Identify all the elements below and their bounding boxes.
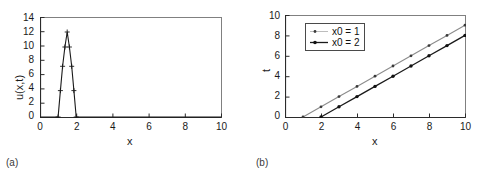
panel-b-ytick-6: 6 (255, 50, 280, 61)
legend-marker-x0-1-icon (309, 27, 329, 36)
panel-a-ytick-10: 10 (12, 40, 34, 51)
panel-a-xtick-2: 2 (67, 121, 87, 132)
panel-b-ytick-2: 2 (255, 90, 280, 101)
panel-a-ytick-8: 8 (12, 54, 34, 65)
panel-b-xtick-8: 8 (420, 121, 440, 132)
panel-a-xtick-4: 4 (103, 121, 123, 132)
figure-root: u(x,t) 0 2 4 6 8 10 12 14 (0, 0, 484, 177)
panel-b-tag: (b) (256, 157, 268, 168)
legend-marker-x0-2-icon (309, 38, 329, 47)
panel-b-legend: x0 = 1 x0 = 2 (305, 23, 365, 51)
panel-b-xtick-10: 10 (456, 121, 476, 132)
panel-b-x-axis-title: x (372, 135, 378, 147)
panel-b-xtick-4: 4 (348, 121, 368, 132)
panel-a-ytick-2: 2 (12, 96, 34, 107)
panel-a-xtick-0: 0 (30, 121, 50, 132)
panel-b-ytick-8: 8 (255, 30, 280, 41)
panel-a-ytick-6: 6 (12, 68, 34, 79)
panel-b-ytick-0: 0 (255, 110, 280, 121)
panel-a-ytick-4: 4 (12, 82, 34, 93)
panel-a: u(x,t) 0 2 4 6 8 10 12 14 (0, 0, 242, 177)
panel-a-ytick-14: 14 (12, 12, 34, 23)
legend-label-x0-2: x0 = 2 (332, 37, 360, 48)
panel-a-xtick-10: 10 (212, 121, 232, 132)
panel-b: t 0 2 4 6 8 10 (242, 0, 484, 177)
panel-a-ytick-0: 0 (12, 110, 34, 121)
panel-b-ytick-4: 4 (255, 70, 280, 81)
panel-a-xtick-8: 8 (175, 121, 195, 132)
legend-item-x0-1: x0 = 1 (309, 26, 360, 37)
panel-b-xtick-2: 2 (312, 121, 332, 132)
panel-b-xtick-6: 6 (384, 121, 404, 132)
panel-a-xtick-6: 6 (139, 121, 159, 132)
panel-b-ytick-10: 10 (255, 10, 280, 21)
panel-b-xtick-0: 0 (276, 121, 296, 132)
panel-a-plot-area (40, 17, 222, 118)
panel-a-ytick-12: 12 (12, 26, 34, 37)
legend-item-x0-2: x0 = 2 (309, 37, 360, 48)
panel-a-x-axis-title: x (127, 135, 133, 147)
legend-label-x0-1: x0 = 1 (332, 26, 360, 37)
panel-a-tag: (a) (6, 157, 18, 168)
